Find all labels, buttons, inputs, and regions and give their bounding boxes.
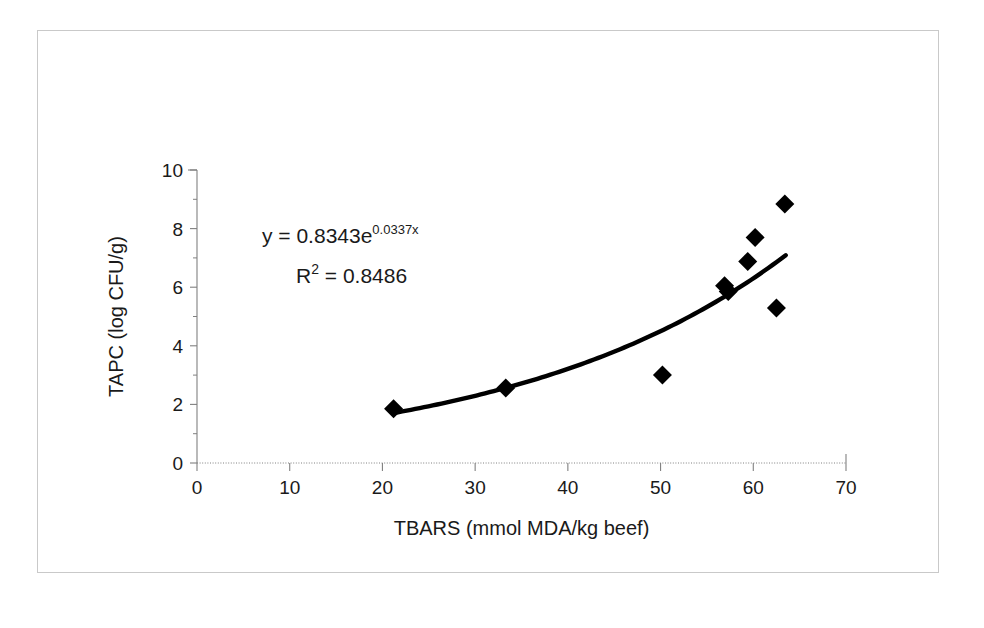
x-axis-tick-label: 30	[465, 477, 486, 498]
data-point-marker	[775, 194, 794, 213]
data-point-marker	[496, 378, 515, 397]
y-axis-tick-label: 10	[162, 160, 183, 181]
trendline-equation: y = 0.8343e0.0337x	[262, 222, 419, 247]
x-axis-tick-label: 50	[650, 477, 671, 498]
x-axis-tick-label: 20	[372, 477, 393, 498]
r-squared-annotation: R2 = 0.8486	[296, 261, 407, 287]
x-axis-tick-label: 70	[835, 477, 856, 498]
y-axis-tick-label: 2	[172, 394, 183, 415]
r-value: = 0.8486	[319, 264, 407, 287]
x-axis-title: TBARS (mmol MDA/kg beef)	[394, 517, 650, 539]
data-point-marker	[738, 252, 757, 271]
y-axis-tick-label: 0	[172, 453, 183, 474]
y-axis-tick-label: 8	[172, 219, 183, 240]
scatter-chart: 0102030405060700246810y = 0.8343e0.0337x…	[0, 0, 984, 628]
data-point-marker	[767, 299, 786, 318]
r-label: R	[296, 264, 311, 287]
x-axis-tick-label: 0	[192, 477, 203, 498]
y-axis-title: TAPC (log CFU/g)	[105, 236, 127, 397]
equation-exponent: 0.0337x	[372, 222, 419, 237]
data-point-marker	[384, 399, 403, 418]
y-axis-tick-label: 4	[172, 336, 183, 357]
r-exponent: 2	[311, 261, 319, 277]
y-axis-tick-label: 6	[172, 277, 183, 298]
equation-base: y = 0.8343e	[262, 224, 372, 247]
x-axis-tick-label: 60	[743, 477, 764, 498]
data-point-marker	[653, 366, 672, 385]
x-axis-tick-label: 40	[557, 477, 578, 498]
x-axis-tick-label: 10	[279, 477, 300, 498]
figure-page: 0102030405060700246810y = 0.8343e0.0337x…	[0, 0, 984, 628]
data-point-marker	[746, 228, 765, 247]
